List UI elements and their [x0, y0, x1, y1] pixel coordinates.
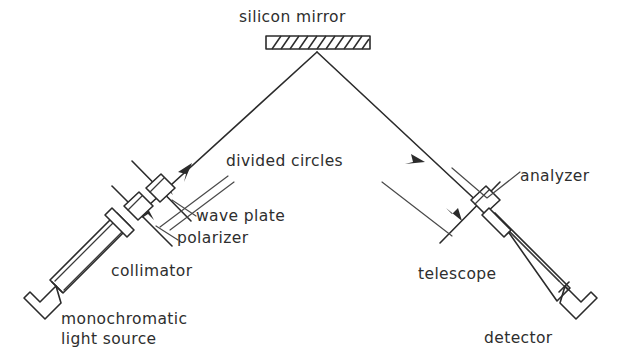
monochromatic-light-source-label-line2: light source [61, 330, 157, 349]
wave-plate-shape [146, 174, 175, 202]
collimator-label: collimator [111, 262, 192, 280]
monochromatic-light-source-shape [24, 282, 62, 319]
beam-path-group [138, 52, 497, 220]
silicon-mirror-shape [266, 36, 370, 49]
reflected-beam-line [317, 52, 497, 220]
wave-plate-label: wave plate [196, 207, 285, 225]
reflected-beam-arrow-icon [405, 154, 425, 164]
divided-circles-label: divided circles [226, 152, 343, 170]
incident-beam-arrow-icon [178, 163, 192, 182]
polarizer-label: polarizer [177, 229, 248, 247]
detector-shape [559, 282, 597, 319]
polarizer-shape [124, 192, 153, 220]
analyzer-label: analyzer [520, 167, 590, 185]
divided-circles-leader-right [382, 182, 452, 236]
analyzer-shape [471, 186, 500, 214]
detector-label: detector [484, 329, 553, 347]
telescope-label: telescope [418, 265, 497, 283]
silicon-mirror-label: silicon mirror [239, 8, 346, 26]
optical-diagram: silicon mirror divided circles wave plat… [0, 0, 623, 363]
monochromatic-light-source-label-line1: monochromatic [61, 310, 187, 329]
telescope-shape [482, 208, 570, 301]
